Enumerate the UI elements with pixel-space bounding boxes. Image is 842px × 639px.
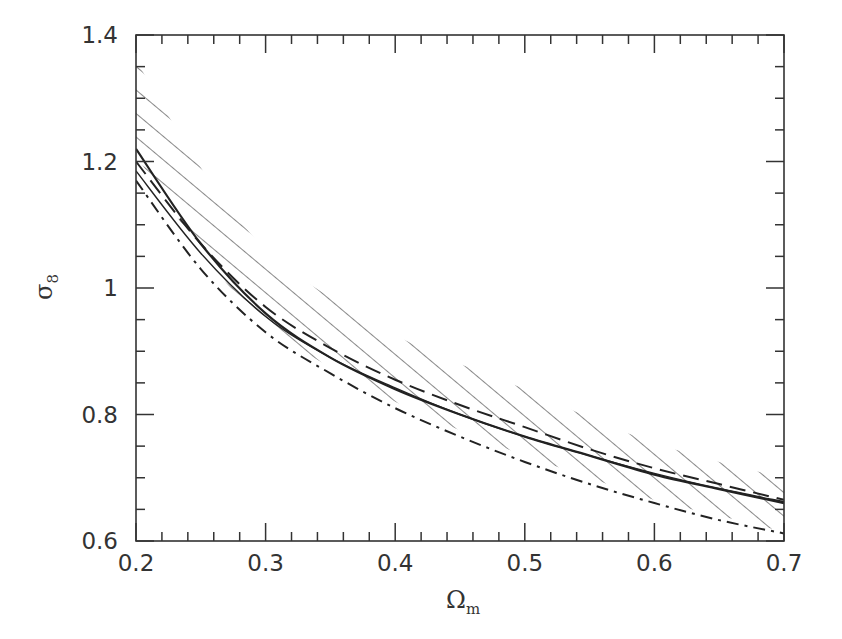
x-tick-label: 0.5 bbox=[507, 550, 544, 576]
hatched-band bbox=[136, 60, 784, 531]
y-tick-label: 0.8 bbox=[81, 402, 118, 428]
y-tick-label: 0.6 bbox=[81, 528, 118, 554]
y-tick-labels: 0.60.811.21.4 bbox=[81, 22, 118, 554]
y-axis-label: σ8 bbox=[30, 274, 62, 300]
x-tick-labels: 0.20.30.40.50.60.7 bbox=[118, 550, 803, 576]
chart: 0.20.30.40.50.60.7 0.60.811.21.4 Ωm σ8 bbox=[0, 0, 842, 639]
x-axis-label-sub: m bbox=[466, 600, 480, 618]
x-tick-label: 0.2 bbox=[118, 550, 155, 576]
x-axis-label-main: Ω bbox=[446, 586, 466, 614]
series-lines bbox=[136, 149, 784, 534]
series-dashed bbox=[136, 162, 784, 500]
y-axis-label-main: σ bbox=[30, 284, 58, 300]
y-tick-label: 1.2 bbox=[81, 149, 118, 175]
hatched-band-area bbox=[136, 60, 784, 531]
y-tick-label: 1.4 bbox=[81, 22, 118, 48]
series-solid bbox=[136, 149, 784, 503]
y-axis-label-sub: 8 bbox=[44, 274, 62, 284]
x-tick-label: 0.7 bbox=[766, 550, 803, 576]
y-tick-label: 1 bbox=[103, 275, 118, 301]
x-tick-label: 0.4 bbox=[377, 550, 414, 576]
x-tick-label: 0.3 bbox=[247, 550, 284, 576]
x-axis-label: Ωm bbox=[446, 586, 480, 618]
x-tick-label: 0.6 bbox=[636, 550, 673, 576]
